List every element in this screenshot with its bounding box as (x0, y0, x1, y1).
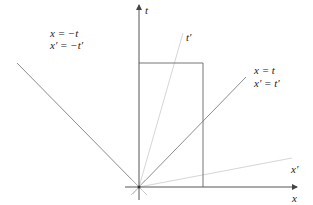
positive-light-line-equation-1: x = t (254, 64, 275, 76)
x-prime-axis (139, 158, 292, 187)
worldline-rectangle (139, 63, 203, 187)
origin-dot (138, 186, 141, 189)
t-prime-label: t′ (186, 31, 191, 43)
light-line-negative (17, 63, 139, 187)
t-axis-label: t (145, 4, 148, 16)
spacetime-diagram (0, 0, 313, 205)
positive-light-line-equation-2: x′ = t′ (254, 77, 280, 89)
negative-light-line-equation-1: x = −t (50, 27, 78, 39)
negative-light-line-equation-2: x′ = −t′ (50, 39, 83, 51)
x-prime-label: x′ (291, 163, 298, 175)
x-axis-label: x (292, 192, 297, 204)
